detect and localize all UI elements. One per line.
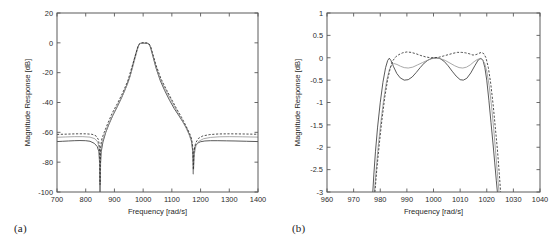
xticklabel: 1020 (479, 195, 495, 204)
series-solid (373, 58, 498, 192)
plot-frame (327, 13, 540, 192)
curves-group (373, 52, 501, 192)
xticklabel: 1400 (250, 195, 266, 204)
curves-group (57, 43, 258, 192)
yticklabel: -60 (42, 128, 53, 137)
x-axis-label: Frequency [rad/s] (404, 207, 463, 216)
yticklabel: 20 (45, 9, 53, 18)
yticklabel: -1.5 (310, 121, 323, 130)
figure-root: 70080090010001100120013001400200-20-40-6… (0, 0, 556, 249)
panel-b: 9609709809901000101010201030104010.50-0.… (278, 0, 556, 249)
series-gray (57, 43, 258, 192)
yticklabel: -80 (42, 158, 53, 167)
yticklabel: 1 (319, 9, 323, 18)
xticklabel: 1040 (532, 195, 548, 204)
xticklabel: 1030 (505, 195, 521, 204)
y-axis-label: Magnitude Response [dB] (293, 59, 302, 146)
yticklabel: -2.5 (310, 165, 323, 174)
xticklabel: 1100 (164, 195, 180, 204)
xticklabel: 990 (401, 195, 413, 204)
panel-b-caption: (b) (292, 222, 305, 234)
xticklabel: 800 (80, 195, 92, 204)
xticklabel: 900 (108, 195, 120, 204)
yticklabel: -100 (38, 188, 53, 197)
yticklabel: -0.5 (310, 76, 323, 85)
x-axis-label: Frequency [rad/s] (128, 207, 187, 216)
plot-frame (57, 13, 258, 192)
yticklabel: 0.5 (313, 31, 323, 40)
xticklabel: 1200 (192, 195, 208, 204)
yticklabel: -20 (42, 68, 53, 77)
xticklabel: 970 (347, 195, 359, 204)
chart-a: 70080090010001100120013001400200-20-40-6… (0, 0, 278, 249)
series-solid (57, 43, 258, 192)
yticklabel: -3 (316, 188, 323, 197)
yticklabel: 0 (319, 54, 323, 63)
xticklabel: 1000 (425, 195, 441, 204)
yticklabel: 0 (49, 39, 53, 48)
panel-a: 70080090010001100120013001400200-20-40-6… (0, 0, 278, 249)
series-gray (374, 58, 499, 192)
xticklabel: 1300 (221, 195, 237, 204)
yticklabel: -40 (42, 98, 53, 107)
panel-a-caption: (a) (14, 222, 27, 234)
xticklabel: 1000 (135, 195, 151, 204)
y-axis-label: Magnitude Response [dB] (23, 59, 32, 146)
yticklabel: -1 (316, 98, 323, 107)
yticklabel: -2 (316, 143, 323, 152)
chart-b: 9609709809901000101010201030104010.50-0.… (278, 0, 556, 249)
series-dashed (375, 52, 501, 192)
xticklabel: 980 (374, 195, 386, 204)
xticklabel: 1010 (452, 195, 468, 204)
series-dashed (57, 43, 258, 185)
